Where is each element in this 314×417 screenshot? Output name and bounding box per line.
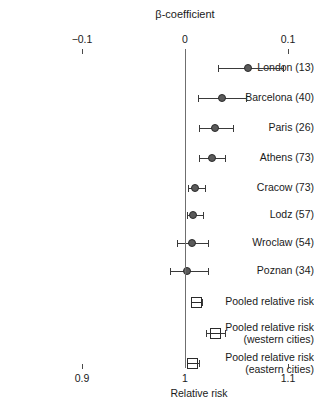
- confidence-interval-cap: [208, 240, 209, 247]
- confidence-interval-cap: [208, 268, 209, 275]
- confidence-interval-cap: [203, 212, 204, 219]
- top-tick-mark: [288, 49, 289, 54]
- pooled-marker-midline: [191, 302, 202, 303]
- bottom-tick-mark: [288, 364, 289, 369]
- row-label: Cracow (73): [142, 182, 314, 194]
- confidence-interval-cap: [177, 240, 178, 247]
- confidence-interval-cap: [198, 95, 199, 102]
- pooled-marker-midline: [210, 333, 221, 334]
- confidence-interval-cap: [246, 95, 247, 102]
- bottom-tick-label: 1.1: [281, 372, 296, 384]
- confidence-interval-cap: [233, 125, 234, 132]
- confidence-interval-cap: [187, 212, 188, 219]
- row-label: Lodz (57): [142, 209, 314, 221]
- row-label: Athens (73): [142, 152, 314, 164]
- row-label: Pooled relative risk: [142, 296, 314, 308]
- confidence-interval-cap: [283, 65, 284, 72]
- confidence-interval-cap: [199, 155, 200, 162]
- estimate-point-marker: [208, 154, 216, 162]
- top-axis-title: β-coefficient: [155, 8, 214, 20]
- bottom-tick-mark: [82, 364, 83, 369]
- confidence-interval-cap: [170, 268, 171, 275]
- confidence-interval-cap: [206, 330, 207, 337]
- top-tick-mark: [82, 49, 83, 54]
- row-label: Poznan (34): [142, 265, 314, 277]
- confidence-interval-cap: [225, 330, 226, 337]
- top-tick-label: 0: [182, 33, 188, 45]
- row-label: Wroclaw (54): [142, 237, 314, 249]
- row-label: Pooled relative risk (western cities): [142, 322, 314, 345]
- confidence-interval-cap: [218, 65, 219, 72]
- bottom-tick-label: 1: [182, 372, 188, 384]
- top-tick-label: −0.1: [72, 33, 93, 45]
- confidence-interval-cap: [205, 185, 206, 192]
- confidence-interval-cap: [199, 360, 200, 367]
- pooled-marker-midline: [187, 363, 198, 364]
- top-tick-label: 0.1: [281, 33, 296, 45]
- confidence-interval-cap: [199, 125, 200, 132]
- bottom-axis-title: Relative risk: [170, 387, 227, 399]
- reference-line: [185, 49, 186, 368]
- estimate-point-marker: [211, 124, 219, 132]
- confidence-interval-cap: [188, 185, 189, 192]
- confidence-interval-cap: [225, 155, 226, 162]
- forest-plot: β-coefficient −0.100.1 London (13)Barcel…: [0, 0, 314, 417]
- bottom-tick-label: 0.9: [75, 372, 90, 384]
